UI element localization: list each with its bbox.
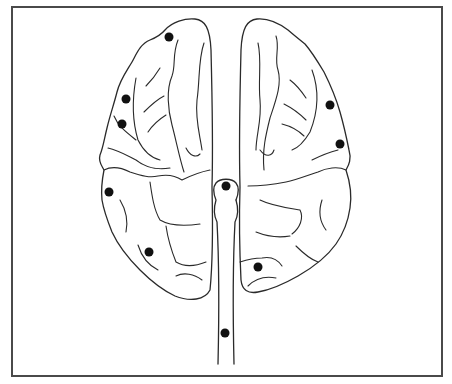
marker-dot-brainstem [221, 329, 230, 338]
brain-diagram-svg [0, 0, 452, 384]
brain-diagram [0, 0, 452, 384]
marker-dot-right-frontal-lateral-1 [326, 101, 335, 110]
marker-dot-left-parietal [105, 188, 114, 197]
marker-dot-midline-vertex [222, 182, 231, 191]
marker-dot-left-frontal-lateral-2 [118, 120, 127, 129]
marker-dot-right-frontal-lateral-2 [336, 140, 345, 149]
diagram-frame [12, 7, 442, 376]
marker-dot-left-occipital [145, 248, 154, 257]
marker-dot-left-frontal-top [165, 33, 174, 42]
marker-dot-right-occipital [254, 263, 263, 272]
marker-dot-left-frontal-lateral-1 [122, 95, 131, 104]
